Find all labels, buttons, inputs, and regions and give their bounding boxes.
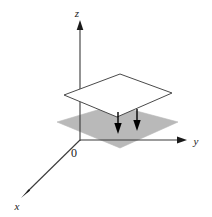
z-axis-label: z [74, 7, 80, 19]
figure-container: z y x 0 [0, 0, 212, 217]
y-axis-label: y [193, 135, 199, 147]
x-axis-label: x [14, 200, 20, 212]
coordinate-plane-diagram: z y x 0 [0, 0, 212, 217]
origin-label: 0 [71, 146, 77, 160]
